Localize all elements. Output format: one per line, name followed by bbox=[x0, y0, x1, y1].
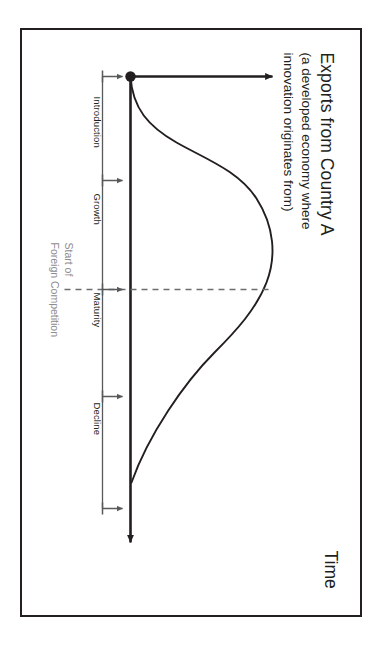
phase-bracket-decline bbox=[102, 396, 122, 514]
phase-bracket-maturity bbox=[102, 289, 122, 402]
rotated-diagram-stage: Exports from Country A (a developed econ… bbox=[22, 30, 360, 615]
x-axis-title: Time bbox=[319, 550, 340, 588]
foreign-competition-annotation: Start ofForeign Competition bbox=[46, 242, 74, 362]
phase-bracket-introduction bbox=[102, 70, 122, 186]
phase-label-introduction: Introduction bbox=[90, 96, 102, 147]
figure-page: Exports from Country A (a developed econ… bbox=[0, 0, 382, 651]
figure-border: Exports from Country A (a developed econ… bbox=[20, 28, 362, 617]
phase-label-maturity: Maturity bbox=[90, 292, 102, 327]
phase-label-growth: Growth bbox=[90, 193, 102, 225]
phase-label-decline: Decline bbox=[90, 402, 102, 435]
y-axis-title: Exports from Country A bbox=[315, 52, 336, 235]
export-curve bbox=[130, 76, 272, 482]
foreign-competition-line-1: Start of bbox=[62, 242, 74, 276]
phase-bracket-growth bbox=[102, 180, 122, 295]
y-axis-subtitle: (a developed economy where innovation or… bbox=[279, 52, 314, 262]
foreign-competition-line-2: Foreign Competition bbox=[48, 242, 60, 337]
